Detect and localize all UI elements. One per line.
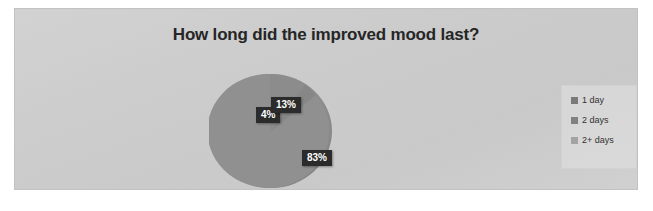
data-label-1-day: 13%: [271, 97, 301, 113]
legend-label: 2+ days: [582, 135, 614, 145]
legend-label: 1 day: [582, 95, 604, 105]
legend-label: 2 days: [582, 115, 609, 125]
legend-swatch-icon: [571, 137, 578, 144]
legend-swatch-icon: [571, 117, 578, 124]
chart-frame: How long did the improved mood last?: [14, 8, 638, 190]
legend-item-2plus-days[interactable]: 2+ days: [571, 135, 636, 145]
legend-swatch-icon: [571, 97, 578, 104]
pie-svg: [209, 73, 333, 189]
legend-item-1-day[interactable]: 1 day: [571, 95, 636, 105]
chart-legend: 1 day 2 days 2+ days: [561, 85, 637, 169]
data-label-2plus-days: 83%: [302, 150, 332, 166]
legend-item-2-days[interactable]: 2 days: [571, 115, 636, 125]
pie-chart: [209, 73, 333, 189]
plot-area: 13% 4% 83% 1 day 2 days 2+ days: [15, 57, 638, 190]
chart-title: How long did the improved mood last?: [15, 25, 637, 45]
